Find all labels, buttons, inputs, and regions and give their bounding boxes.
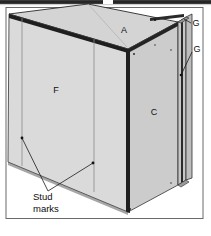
label-edge-lower-g: G	[193, 44, 200, 54]
figure-container: A F C G G Stud marks	[0, 0, 211, 236]
label-front-face-f: F	[53, 85, 59, 95]
top-cutoff-bar	[0, 0, 211, 5]
label-edge-upper-g: G	[192, 18, 199, 28]
callout-stud-marks-line2: marks	[33, 203, 59, 214]
panel-front-face	[8, 14, 128, 212]
label-right-face-c: C	[151, 107, 158, 117]
panel-assembly-illustration: A F C G G Stud marks	[0, 0, 211, 236]
callout-stud-marks-line1: Stud	[33, 191, 53, 202]
label-top-face-a: A	[121, 25, 127, 35]
panel-corner-edge	[126, 49, 130, 213]
edge-panel-strips	[178, 14, 192, 187]
